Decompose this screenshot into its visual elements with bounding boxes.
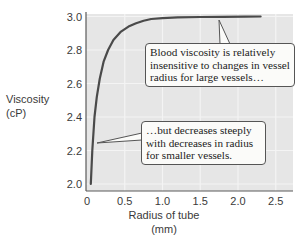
x-tick-label: 2.0: [230, 195, 245, 207]
x-axis-title-line-2: (mm): [151, 223, 177, 235]
callout-small-vessels: …but decreases steeply with decreases in…: [141, 121, 266, 165]
y-tick-label: 3.0: [67, 11, 82, 23]
x-axis-title: Radius of tube (mm): [129, 209, 200, 235]
y-tick-label: 2.2: [67, 145, 82, 157]
y-tick-label: 2.4: [67, 111, 82, 123]
x-axis-title-line-1: Radius of tube: [129, 209, 200, 221]
y-axis-title-line-2: (cP): [6, 107, 26, 119]
x-tick-label: 2.5: [268, 195, 283, 207]
callout-large-line-1: Blood viscosity is relatively: [150, 46, 290, 59]
y-axis-title-line-1: Viscosity: [6, 93, 50, 105]
y-tick-label: 2.6: [67, 78, 82, 90]
callout-small-line-3: for smaller vessels.: [146, 149, 261, 162]
callout-small-line-1: …but decreases steeply: [146, 124, 261, 137]
y-axis-title: Viscosity (cP): [6, 93, 50, 119]
y-tick-labels: 2.02.22.42.62.83.0: [67, 11, 82, 191]
y-tick-label: 2.0: [67, 178, 82, 190]
callout-large-line-3: radius for large vessels…: [150, 71, 290, 84]
callout-small-line-2: with decreases in radius: [146, 137, 261, 150]
x-tick-label: 0.5: [117, 195, 132, 207]
callout-large-vessels: Blood viscosity is relatively insensitiv…: [145, 43, 295, 87]
x-tick-labels: 00.51.01.52.02.5: [84, 195, 283, 207]
x-tick-label: 1.0: [155, 195, 170, 207]
y-tick-label: 2.8: [67, 44, 82, 56]
x-tick-label: 0: [84, 195, 90, 207]
callout-large-line-2: insensitive to changes in vessel: [150, 59, 290, 72]
x-tick-label: 1.5: [193, 195, 208, 207]
